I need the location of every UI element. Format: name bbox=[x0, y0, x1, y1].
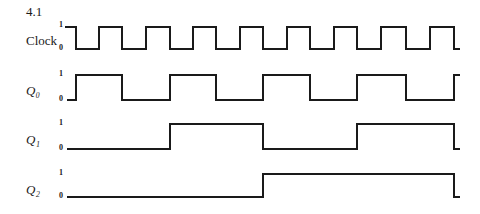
clock-waveform bbox=[65, 27, 460, 49]
waveforms bbox=[0, 0, 480, 214]
q1-waveform bbox=[67, 124, 460, 149]
q2-waveform bbox=[67, 174, 460, 197]
q0-waveform bbox=[67, 75, 460, 100]
